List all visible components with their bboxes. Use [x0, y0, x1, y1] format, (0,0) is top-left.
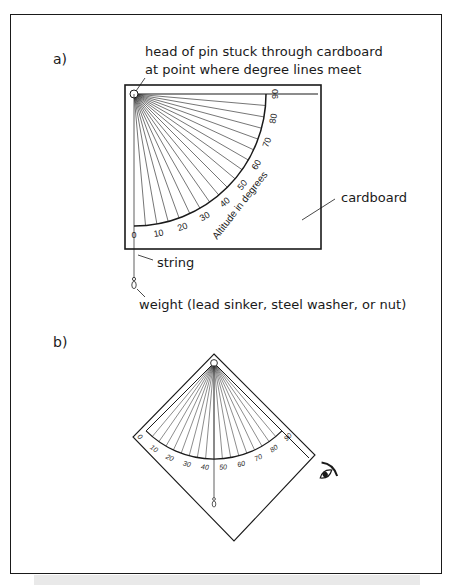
tilted-weight-icon [212, 498, 216, 507]
panel-a-label: a) [53, 51, 67, 67]
tilted-tick-label: 20 [164, 452, 175, 462]
degree-line [134, 94, 262, 128]
tilted-degree-line [173, 363, 214, 450]
degree-line [134, 94, 254, 150]
tilted-degree-line [189, 363, 214, 456]
tick-label: 20 [176, 220, 189, 233]
panel-b-label: b) [53, 334, 67, 350]
tilted-tick-label: 40 [201, 463, 209, 471]
tilted-tick-label: 0 [136, 433, 144, 441]
tick-label: 90 [270, 89, 280, 99]
pin-caption-line1: head of pin stuck through cardboard [145, 44, 383, 59]
tilted-degree-line [214, 363, 247, 453]
weight-label: weight (lead sinker, steel washer, or nu… [139, 297, 406, 312]
degree-line [134, 94, 168, 222]
weight-icon [132, 277, 136, 288]
string-label: string [157, 255, 194, 270]
tilted-degree-line [214, 363, 222, 459]
tilted-cardboard [133, 354, 315, 541]
tilted-degree-line [152, 363, 214, 437]
pin-caption-line2: at point where degree lines meet [145, 62, 361, 77]
tick-label: 10 [153, 227, 165, 239]
tilted-degree-line [181, 363, 214, 453]
tick-label: 30 [198, 210, 212, 224]
eye-icon [313, 459, 338, 485]
tilted-degree-line [214, 363, 276, 437]
degree-line [134, 94, 190, 214]
tick-label: 40 [218, 195, 232, 209]
tilted-degree-line [214, 363, 239, 456]
tilted-degree-line [206, 363, 214, 459]
string-leader-line [138, 255, 153, 260]
tick-label: 70 [260, 136, 273, 149]
degree-fan: 0102030405060708090 [131, 89, 280, 240]
panel-a: a) head of pin stuck through cardboard a… [53, 44, 407, 312]
tilted-tick-label: 10 [149, 443, 159, 453]
weight-leader-line [137, 289, 145, 297]
tilted-tick-label: 70 [253, 453, 263, 463]
cardboard-leader-line [302, 199, 335, 220]
cardboard-label: cardboard [341, 190, 407, 205]
tilted-tick-label: 30 [182, 459, 191, 468]
degree-line [134, 94, 146, 226]
diagram-canvas: a) head of pin stuck through cardboard a… [0, 0, 452, 585]
tilted-degree-fan: 0102030405060708090 [136, 363, 293, 471]
tilted-tick-label: 80 [269, 443, 279, 453]
tilted-tick-label: 50 [219, 463, 227, 471]
tilted-degree-line [214, 363, 255, 450]
tilted-degree-line [214, 363, 269, 442]
tilted-tick-label: 60 [236, 459, 245, 468]
degree-line [134, 94, 266, 106]
panel-b: b) 0102030405060708090 [53, 334, 338, 541]
tick-label: 80 [267, 113, 279, 125]
